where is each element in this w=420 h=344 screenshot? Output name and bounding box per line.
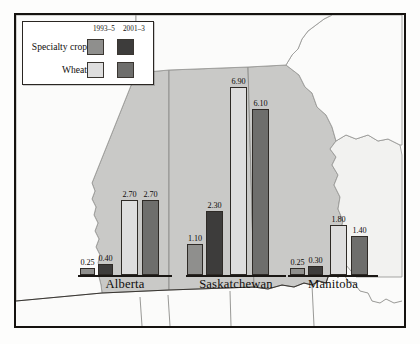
bar-saskatchewan-3 xyxy=(252,109,269,275)
bar-value-label: 6.90 xyxy=(227,77,251,86)
province-label-manitoba: Manitoba xyxy=(288,277,378,292)
bar-saskatchewan-0 xyxy=(187,244,203,275)
bar-saskatchewan-2 xyxy=(230,87,247,275)
legend-period-1-label: 1993–5 xyxy=(89,25,119,33)
legend-swatch-wheat-2001 xyxy=(117,62,134,78)
bar-group-baseline xyxy=(288,275,378,277)
bar-value-label: 1.80 xyxy=(327,215,351,224)
bar-manitoba-2 xyxy=(330,225,347,275)
bar-value-label: 0.30 xyxy=(304,256,328,265)
figure-canvas: 1993–52001–3 Specialty crop Wheat 0.250.… xyxy=(0,0,420,344)
legend-period-2-label: 2001–3 xyxy=(119,25,149,33)
legend-swatch-specialty-2001 xyxy=(117,39,134,55)
legend-swatch-specialty-1993 xyxy=(87,39,104,55)
bar-group-baseline xyxy=(78,275,172,277)
legend-label-specialty-crop: Specialty crop xyxy=(32,41,87,52)
bar-value-label: 1.10 xyxy=(183,234,207,243)
legend-swatch-wheat-1993 xyxy=(87,62,104,78)
bar-value-label: 2.30 xyxy=(203,201,227,210)
bar-group-manitoba: 0.250.301.801.40 xyxy=(288,15,378,277)
bar-value-label: 0.40 xyxy=(94,254,118,263)
bar-value-label: 1.40 xyxy=(348,226,372,235)
legend-label-wheat: Wheat xyxy=(62,64,87,75)
bar-alberta-2 xyxy=(121,200,138,275)
bar-value-label: 6.10 xyxy=(249,99,273,108)
bar-group-saskatchewan: 1.102.306.906.10 xyxy=(186,15,286,277)
bar-manitoba-0 xyxy=(290,268,305,275)
legend-period-header: 1993–52001–3 xyxy=(23,25,155,33)
bar-alberta-0 xyxy=(80,268,95,275)
bar-alberta-1 xyxy=(98,264,113,275)
bar-manitoba-1 xyxy=(308,266,323,275)
legend: 1993–52001–3 Specialty crop Wheat xyxy=(22,21,154,85)
legend-row-specialty-crop: Specialty crop xyxy=(23,37,155,59)
legend-row-wheat: Wheat xyxy=(23,60,155,82)
province-label-saskatchewan: Saskatchewan xyxy=(179,277,293,292)
bar-manitoba-3 xyxy=(351,236,368,275)
map-frame: 1993–52001–3 Specialty crop Wheat 0.250.… xyxy=(14,13,406,328)
province-label-alberta: Alberta xyxy=(78,277,172,292)
bar-value-label: 2.70 xyxy=(139,190,163,199)
bar-saskatchewan-1 xyxy=(206,211,223,275)
bar-alberta-3 xyxy=(142,200,159,275)
bar-group-baseline xyxy=(186,275,286,277)
